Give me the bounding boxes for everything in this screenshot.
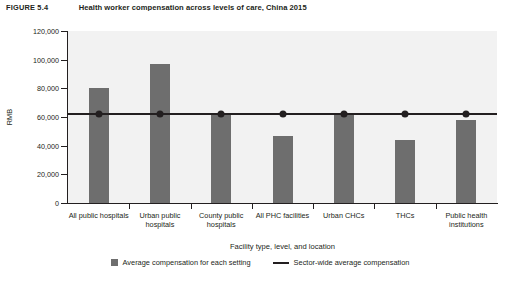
y-tick-label: 20,000 xyxy=(5,170,59,179)
x-category-label: Public health institutions xyxy=(436,211,497,229)
bar xyxy=(334,114,354,203)
y-tick-label: 100,000 xyxy=(5,55,59,64)
bar xyxy=(150,64,170,203)
x-category-label: County public hospitals xyxy=(191,211,252,229)
chart-area: RMB 020,00040,00060,00080,000100,000120,… xyxy=(0,11,520,287)
bar xyxy=(89,88,109,203)
figure-title: Health worker compensation across levels… xyxy=(79,3,307,11)
bar xyxy=(456,120,476,203)
y-tick-mark xyxy=(61,117,67,118)
figure-header: FIGURE 5.4 Health worker compensation ac… xyxy=(0,0,520,11)
figure-number-label: FIGURE 5.4 xyxy=(6,3,48,11)
square-swatch-icon xyxy=(111,259,118,266)
x-category-label: All PHC facilities xyxy=(252,211,313,220)
y-tick-mark xyxy=(61,203,67,204)
y-tick-label: 0 xyxy=(5,199,59,208)
y-tick-mark xyxy=(61,31,67,32)
legend-item-average-line: Sector-wide average compensation xyxy=(273,258,410,267)
y-tick-mark xyxy=(61,60,67,61)
line-swatch-icon xyxy=(273,262,289,264)
average-line-marker xyxy=(156,111,163,118)
x-tick-mark xyxy=(129,204,130,209)
x-tick-mark xyxy=(374,204,375,209)
average-line-marker xyxy=(95,111,102,118)
x-category-label: Urban CHCs xyxy=(313,211,374,220)
x-tick-mark xyxy=(191,204,192,209)
bar xyxy=(211,114,231,203)
x-category-label: THCs xyxy=(374,211,435,220)
y-tick-mark xyxy=(61,88,67,89)
y-tick-label: 120,000 xyxy=(5,27,59,36)
legend-item-bar-series: Average compensation for each setting xyxy=(111,258,251,267)
y-tick-label: 60,000 xyxy=(5,113,59,122)
legend-label-average-line: Sector-wide average compensation xyxy=(294,258,410,267)
legend-label-bar-series: Average compensation for each setting xyxy=(123,258,251,267)
y-tick-label: 40,000 xyxy=(5,141,59,150)
x-category-label: Urban public hospitals xyxy=(129,211,190,229)
x-tick-mark xyxy=(436,204,437,209)
average-line-marker xyxy=(402,111,409,118)
x-category-label: All public hospitals xyxy=(68,211,129,220)
y-tick-mark xyxy=(61,174,67,175)
average-line-marker xyxy=(463,111,470,118)
y-tick-label: 80,000 xyxy=(5,84,59,93)
chart-legend: Average compensation for each setting Se… xyxy=(0,258,520,267)
average-line-marker xyxy=(218,111,225,118)
x-axis-line xyxy=(67,203,498,204)
y-tick-mark xyxy=(61,146,67,147)
bar xyxy=(395,140,415,203)
bar xyxy=(273,136,293,203)
x-tick-mark xyxy=(252,204,253,209)
x-axis-title: Facility type, level, and location xyxy=(68,242,497,251)
average-line-marker xyxy=(340,111,347,118)
x-tick-mark xyxy=(313,204,314,209)
average-line-marker xyxy=(279,111,286,118)
y-axis-line xyxy=(67,31,68,204)
